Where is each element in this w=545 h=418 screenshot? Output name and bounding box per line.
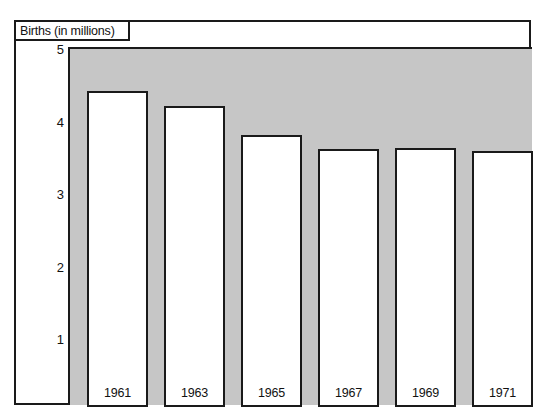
- bar-1965: 1965: [241, 135, 302, 407]
- bar-1967: 1967: [318, 149, 379, 407]
- y-axis-tick-1: 1: [18, 332, 64, 347]
- bar-label-1963: 1963: [181, 387, 208, 406]
- bar-label-1967: 1967: [335, 387, 362, 406]
- bar-1961: 1961: [87, 91, 148, 407]
- bar-1963: 1963: [164, 106, 225, 407]
- bar-label-1969: 1969: [412, 387, 439, 406]
- chart-title-box: Births (in millions): [16, 22, 130, 41]
- bar-1969: 1969: [395, 148, 456, 407]
- page-title: Births (in millions): [20, 24, 115, 38]
- y-axis-tick-4: 4: [18, 114, 64, 129]
- bar-label-1961: 1961: [104, 387, 131, 406]
- y-axis-tick-3: 3: [18, 187, 64, 202]
- chart-figure: Births (in millions) 12345 1961196319651…: [14, 20, 531, 405]
- y-axis-tick-2: 2: [18, 259, 64, 274]
- plot-area: 12345 196119631965196719691971: [68, 47, 532, 405]
- y-axis-tick-5: 5: [18, 42, 64, 57]
- bar-1971: 1971: [472, 151, 533, 407]
- bar-label-1965: 1965: [258, 387, 285, 406]
- bar-label-1971: 1971: [489, 387, 516, 406]
